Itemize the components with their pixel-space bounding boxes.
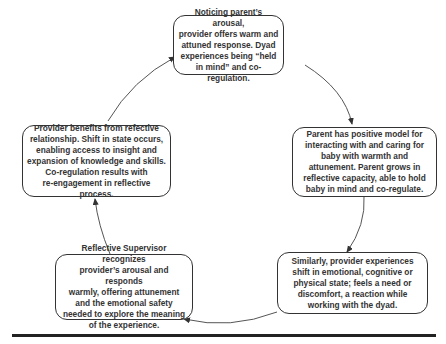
node-bottom-right: Similarly, provider experiences shift in… bbox=[277, 252, 428, 314]
node-bottom-left-text: Reflective Supervisor recognizes provide… bbox=[60, 243, 188, 331]
bottom-rule bbox=[12, 334, 436, 337]
node-left: Provider benefits from refective relatio… bbox=[22, 125, 171, 197]
node-bottom-left: Reflective Supervisor recognizes provide… bbox=[55, 254, 193, 320]
node-right: Parent has positive model for interactin… bbox=[292, 127, 437, 197]
node-right-text: Parent has positive model for interactin… bbox=[303, 129, 426, 195]
node-top: Noticing parent’s arousal, provider offe… bbox=[173, 15, 284, 75]
arrow-left-to-top bbox=[108, 57, 175, 121]
node-top-text: Noticing parent’s arousal, provider offe… bbox=[178, 7, 279, 84]
arrow-top-to-right bbox=[305, 65, 352, 124]
node-left-text: Provider benefits from refective relatio… bbox=[27, 123, 166, 200]
arrow-right-to-bottom-right bbox=[347, 196, 364, 252]
arrow-bottom-right-to-bottom-left bbox=[184, 312, 277, 323]
node-bottom-right-text: Similarly, provider experiences shift in… bbox=[291, 256, 413, 311]
